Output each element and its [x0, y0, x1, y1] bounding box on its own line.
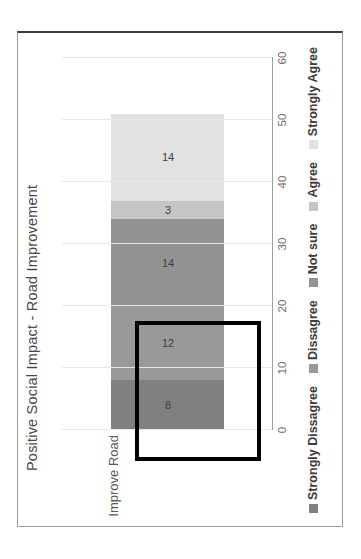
- value-tick-label-30: 30: [276, 224, 288, 264]
- legend-swatch-icon: [309, 364, 318, 373]
- chart-legend: Strongly DissagreeDissagreeNot sureAgree…: [306, 33, 320, 527]
- value-axis-line: [272, 57, 273, 430]
- legend-swatch-icon: [309, 278, 318, 287]
- legend-label: Dissagree: [306, 300, 320, 360]
- legend-swatch-icon: [309, 504, 318, 513]
- gridline-40: [62, 181, 272, 182]
- bar-segment-not-sure[interactable]: 14: [111, 219, 224, 306]
- bar-segment-strongly-agree[interactable]: 14: [111, 113, 224, 200]
- gridline-30: [62, 243, 272, 244]
- legend-item-dissagree[interactable]: Dissagree: [306, 300, 320, 373]
- value-tick-label-0: 0: [276, 410, 288, 450]
- highlight-annotation-rectangle: [135, 321, 261, 461]
- bar-segment-value-label: 14: [161, 151, 173, 163]
- legend-item-strongly-dissagree[interactable]: Strongly Dissagree: [306, 386, 320, 513]
- legend-swatch-icon: [309, 201, 318, 210]
- legend-label: Agree: [306, 162, 320, 197]
- legend-item-strongly-agree[interactable]: Strongly Agree: [306, 47, 320, 149]
- value-tick-label-50: 50: [276, 100, 288, 140]
- chart-title: Positive Social Impact - Road Improvemen…: [24, 33, 40, 527]
- bar-segment-value-label: 3: [164, 203, 170, 215]
- value-tick-label-20: 20: [276, 286, 288, 326]
- bar-segment-agree[interactable]: 3: [111, 200, 224, 219]
- value-tick-label-60: 60: [276, 38, 288, 78]
- value-tick-label-10: 10: [276, 348, 288, 388]
- chart-frame: Positive Social Impact - Road Improvemen…: [17, 31, 343, 527]
- legend-swatch-icon: [309, 140, 318, 149]
- legend-label: Strongly Dissagree: [306, 386, 320, 500]
- gridline-20: [62, 305, 272, 306]
- legend-label: Not sure: [306, 223, 320, 274]
- legend-item-not-sure[interactable]: Not sure: [306, 223, 320, 287]
- category-tick-label: Improve Road: [106, 435, 121, 527]
- value-tick-label-40: 40: [276, 162, 288, 202]
- gridline-50: [62, 119, 272, 120]
- legend-label: Strongly Agree: [306, 47, 320, 136]
- legend-item-agree[interactable]: Agree: [306, 162, 320, 210]
- bar-segment-value-label: 14: [161, 256, 173, 268]
- gridline-60: [62, 57, 272, 58]
